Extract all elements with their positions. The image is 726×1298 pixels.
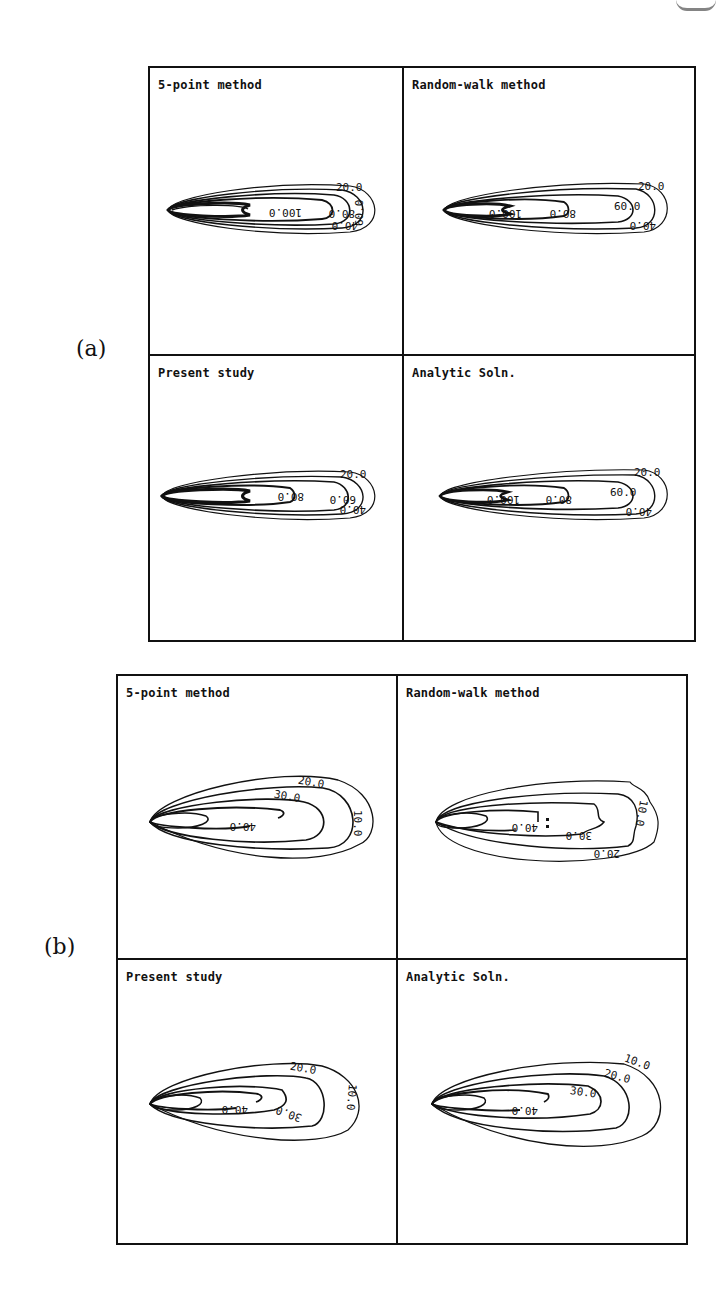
svg-text:10.0: 10.0 — [344, 1083, 359, 1111]
panel-b-5-point: 5-point method 20.0 30.0 40.0 10.0 — [118, 676, 396, 958]
svg-text:20.0: 20.0 — [638, 180, 665, 193]
svg-text:60.0: 60.0 — [614, 200, 641, 213]
svg-text:40.0: 40.0 — [332, 219, 359, 232]
svg-text:30.0: 30.0 — [273, 788, 301, 805]
panel-b-analytic: Analytic Soln. 10.0 20.0 30.0 40.0 — [398, 960, 686, 1243]
svg-text:10.0: 10.0 — [351, 810, 364, 837]
svg-text:20.0: 20.0 — [336, 181, 363, 194]
svg-text:60.0: 60.0 — [610, 486, 637, 499]
svg-text:20.0: 20.0 — [594, 847, 621, 860]
contour-plot: 20.0 80.0 60.0 40.0 — [150, 356, 402, 640]
contour-plot: 20.0 60.0 100.0 80.0 40.0 — [404, 68, 694, 354]
svg-text:20.0: 20.0 — [340, 468, 367, 481]
svg-text:80.0: 80.0 — [550, 207, 577, 220]
svg-text:30.0: 30.0 — [274, 1103, 303, 1124]
svg-text:10.0: 10.0 — [633, 799, 650, 827]
contour-plot: 20.0 60.0 100.0 80.0 40.0 — [404, 356, 694, 640]
svg-text:30.0: 30.0 — [566, 829, 593, 842]
svg-text:40.0: 40.0 — [512, 1104, 539, 1117]
svg-text:40.0: 40.0 — [512, 821, 539, 834]
contour-plot: 20.0 100.0 80.0 60.0 40.0 — [150, 68, 402, 354]
panel-a-analytic: Analytic Soln. 20.0 60.0 100.0 80.0 40.0 — [404, 356, 694, 640]
svg-text:100.0: 100.0 — [269, 206, 302, 219]
svg-text:40.0: 40.0 — [626, 505, 653, 518]
svg-text:20.0: 20.0 — [289, 1060, 317, 1077]
part-label-a: (a) — [76, 336, 106, 361]
svg-text:40.0: 40.0 — [230, 820, 257, 833]
svg-text:40.0: 40.0 — [340, 503, 367, 516]
contour-plot: 20.0 30.0 40.0 10.0 — [118, 676, 396, 958]
part-label-b: (b) — [44, 934, 75, 959]
svg-text:40.0: 40.0 — [630, 219, 657, 232]
contour-plot: 10.0 40.0 30.0 20.0 — [398, 676, 686, 958]
panel-b-random-walk: Random-walk method 10.0 40.0 30.0 20.0 — [398, 676, 686, 958]
contour-plot: 10.0 20.0 30.0 40.0 — [398, 960, 686, 1243]
svg-text:80.0: 80.0 — [278, 490, 305, 503]
svg-text:20.0: 20.0 — [297, 774, 325, 791]
panel-a-present-study: Present study 20.0 80.0 60.0 40.0 — [150, 356, 402, 640]
svg-text:20.0: 20.0 — [634, 466, 661, 479]
page-corner-mark — [676, 0, 716, 11]
svg-text:80.0: 80.0 — [546, 493, 573, 506]
svg-text:100.0: 100.0 — [487, 493, 520, 506]
svg-text:80.0: 80.0 — [329, 207, 356, 220]
contour-plot: 20.0 40.0 30.0 10.0 — [118, 960, 396, 1243]
svg-text:40.0: 40.0 — [222, 1103, 249, 1116]
panel-b-present-study: Present study 20.0 40.0 30.0 10.0 — [118, 960, 396, 1243]
panel-a-random-walk: Random-walk method 20.0 60.0 100.0 80.0 … — [404, 68, 694, 354]
svg-text:100.0: 100.0 — [489, 207, 522, 220]
panel-a-5-point: 5-point method 20.0 100.0 80.0 60.0 40.0 — [150, 68, 402, 354]
svg-text:30.0: 30.0 — [569, 1084, 597, 1101]
